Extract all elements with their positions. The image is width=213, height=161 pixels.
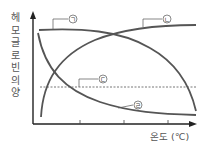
x-axis-label: 온도 (℃) bbox=[150, 129, 189, 143]
label-c-text: ㄷ bbox=[100, 76, 106, 84]
y-axis-arrow-icon bbox=[30, 11, 36, 19]
label-d-text: ㄹ bbox=[135, 102, 141, 110]
label-a-text: ㄱ bbox=[70, 16, 76, 24]
x-axis-arrow-icon bbox=[189, 121, 197, 127]
series-a-curve bbox=[39, 29, 196, 111]
label-b-text: ㄴ bbox=[164, 16, 170, 24]
axes bbox=[30, 11, 197, 127]
y-axis-label: 헤모글로빈의 양 bbox=[9, 12, 21, 100]
label-c: ㄷ bbox=[79, 75, 107, 87]
label-a: ㄱ bbox=[53, 15, 77, 29]
series-d-curve bbox=[38, 33, 196, 115]
series-b-curve bbox=[41, 25, 196, 117]
